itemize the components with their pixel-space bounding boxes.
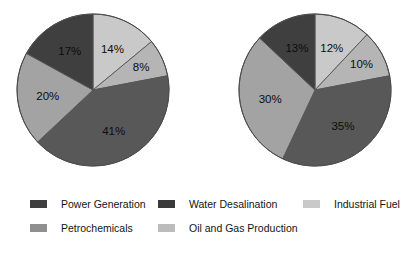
legend-item-oil-and-gas-production: Oil and Gas Production xyxy=(158,218,298,238)
pie-chart-right-svg: 12%10%35%30%13% xyxy=(209,0,417,186)
legend-swatch-power-generation xyxy=(30,200,47,208)
figure-root: 14%8%41%20%17% 12%10%35%30%13% Power Gen… xyxy=(0,0,417,253)
pie-slice-value-label: 13% xyxy=(285,42,308,54)
legend-item-industrial-fuel: Industrial Fuel xyxy=(303,194,400,214)
legend-swatch-petrochemicals xyxy=(30,224,47,232)
legend: Power Generation Water Desalination Indu… xyxy=(0,188,417,253)
legend-label-petrochemicals: Petrochemicals xyxy=(61,222,133,234)
pie-slice-value-label: 8% xyxy=(133,61,150,73)
pie-slice-value-label: 41% xyxy=(102,125,125,137)
legend-item-water-desalination: Water Desalination xyxy=(158,194,277,214)
legend-item-petrochemicals: Petrochemicals xyxy=(30,218,133,238)
legend-item-power-generation: Power Generation xyxy=(30,194,146,214)
charts-row: 14%8%41%20%17% 12%10%35%30%13% xyxy=(0,0,417,186)
legend-label-power-generation: Power Generation xyxy=(61,198,146,210)
legend-label-water-desalination: Water Desalination xyxy=(189,198,277,210)
pie-slice-value-label: 20% xyxy=(36,90,59,102)
legend-swatch-oil-and-gas-production xyxy=(158,224,175,232)
legend-label-oil-and-gas-production: Oil and Gas Production xyxy=(189,222,298,234)
legend-label-industrial-fuel: Industrial Fuel xyxy=(334,198,400,210)
legend-row-2: Petrochemicals Oil and Gas Production xyxy=(0,218,417,240)
legend-swatch-water-desalination xyxy=(158,200,175,208)
pie-slice-value-label: 17% xyxy=(58,45,81,57)
legend-swatch-industrial-fuel xyxy=(303,200,320,208)
pie-slice-value-label: 35% xyxy=(331,120,354,132)
pie-chart-left-svg: 14%8%41%20%17% xyxy=(0,0,208,186)
legend-row-1: Power Generation Water Desalination Indu… xyxy=(0,194,417,216)
pie-chart-left: 14%8%41%20%17% xyxy=(0,0,208,186)
pie-chart-right: 12%10%35%30%13% xyxy=(209,0,417,186)
pie-slice-value-label: 12% xyxy=(320,42,343,54)
pie-slice-value-label: 30% xyxy=(259,93,282,105)
pie-slice-value-label: 10% xyxy=(350,58,373,70)
pie-right-slices xyxy=(239,14,391,166)
pie-slice-value-label: 14% xyxy=(101,43,124,55)
